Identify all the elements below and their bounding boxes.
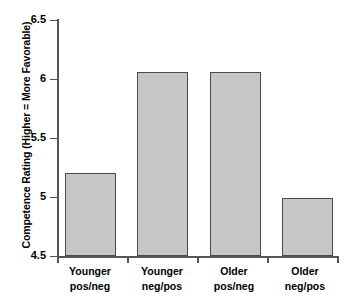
bar-older-posneg	[210, 72, 261, 256]
y-tick-label-6: 6	[6, 73, 46, 84]
bar-chart-figure: Competence Rating (Higher = More Favorab…	[0, 0, 349, 301]
bar-younger-posneg	[65, 173, 116, 256]
y-tick-label-5: 5	[6, 191, 46, 202]
bar-older-negpos	[282, 198, 333, 256]
bar-younger-negpos	[137, 72, 188, 256]
y-axis-line	[57, 19, 59, 258]
x-axis-label-older-negpos: Older neg/pos	[262, 264, 348, 293]
x-tick-mark-1	[127, 256, 129, 263]
x-tick-mark-3	[267, 256, 269, 263]
x-tick-mark-2	[197, 256, 199, 263]
y-tick-label-5.5: 5.5	[6, 132, 46, 143]
x-tick-mark-0	[57, 256, 59, 263]
y-tick-label-4.5: 4.5	[6, 250, 46, 261]
y-tick-label-6.5: 6.5	[6, 14, 46, 25]
x-axis-label-line1: Older	[262, 264, 348, 279]
x-tick-mark-4	[337, 256, 339, 263]
x-axis-label-line2: neg/pos	[262, 279, 348, 294]
